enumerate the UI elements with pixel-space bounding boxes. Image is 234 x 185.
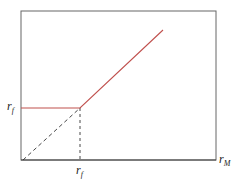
payoff-line	[21, 30, 163, 108]
diagonal-dashed-line	[23, 108, 80, 160]
x-tick-label: rf	[76, 163, 83, 179]
y-label: rf	[7, 99, 14, 115]
x-axis-label: rM	[219, 152, 230, 168]
frame	[21, 11, 216, 160]
payoff-diagram	[0, 0, 234, 185]
